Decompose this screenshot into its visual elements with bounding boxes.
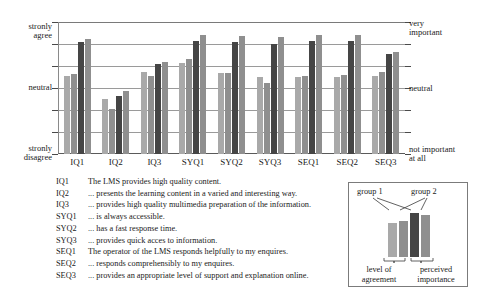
legend-group2-label: group 2 (411, 187, 437, 196)
bar (271, 44, 277, 154)
key-item-text: ... responds comprehensibly to my enquir… (88, 258, 346, 270)
key-item-code: SYQ3 (56, 235, 88, 247)
x-axis-label-syq3: SYQ3 (251, 157, 290, 167)
bar (278, 37, 284, 154)
legend-group1-label: group 1 (357, 187, 383, 196)
bar (302, 76, 308, 154)
bar (316, 35, 322, 154)
bar-group-seq1 (289, 22, 328, 154)
key-list-item: SYQ2... has a fast response time. (56, 223, 346, 235)
bar-group-syq2 (212, 22, 251, 154)
right-axis-tick (405, 44, 411, 45)
key-item-text: ... provides an appropriate level of sup… (88, 270, 346, 282)
legend-footer-agreement: level of agreement (353, 265, 405, 284)
right-axis-tick (405, 110, 411, 111)
left-axis-tick (52, 154, 58, 155)
key-item-code: SYQ2 (56, 223, 88, 235)
bar (379, 72, 385, 155)
question-key-list: IQ1The LMS provides high quality content… (56, 176, 346, 281)
bar-group-iq1 (58, 22, 97, 154)
x-axis-label-iq2: IQ2 (97, 157, 136, 167)
x-axis-label-syq1: SYQ1 (174, 157, 213, 167)
key-item-text: The operator of the LMS responds helpful… (88, 246, 346, 258)
chart-legend: group 1 group 2 level of agreement perce… (348, 182, 468, 287)
key-list-item: IQ1The LMS provides high quality content… (56, 176, 346, 188)
key-list-item: SYQ1... is always accessible. (56, 211, 346, 223)
bar (179, 63, 185, 154)
bar (162, 62, 168, 154)
legend-bar (410, 213, 419, 257)
bar (386, 54, 392, 154)
key-list-item: SEQ1The operator of the LMS responds hel… (56, 246, 346, 258)
bar (85, 39, 91, 155)
bar (64, 76, 70, 154)
x-axis-label-syq2: SYQ2 (212, 157, 251, 167)
bar (186, 59, 192, 154)
bar-group-syq1 (174, 22, 213, 154)
bar-groups (58, 22, 405, 154)
key-item-code: SEQ1 (56, 246, 88, 258)
left-axis-mid-label: neutral (0, 83, 52, 92)
key-list-item: SEQ3... provides an appropriate level of… (56, 270, 346, 282)
bar (341, 75, 347, 154)
bar (257, 77, 263, 154)
bar (155, 64, 161, 154)
bar (71, 74, 77, 154)
key-item-code: SEQ2 (56, 258, 88, 270)
bar-group-seq2 (328, 22, 367, 154)
bar (116, 96, 122, 154)
bar (148, 76, 154, 154)
key-list-item: SEQ2... responds comprehensibly to my en… (56, 258, 346, 270)
right-axis-tick (405, 66, 411, 67)
legend-bar (399, 221, 408, 257)
bar (372, 76, 378, 154)
key-item-code: SEQ3 (56, 270, 88, 282)
bar (200, 35, 206, 154)
left-axis-bottom-label: stronly disagree (0, 144, 52, 162)
x-axis-label-iq1: IQ1 (58, 157, 97, 167)
bar-group-syq3 (251, 22, 290, 154)
right-axis-tick (405, 132, 411, 133)
key-item-text: ... presents the learning content in a v… (88, 188, 346, 200)
bar (232, 42, 238, 154)
bar (123, 91, 129, 154)
key-item-text: ... has a fast response time. (88, 223, 346, 235)
key-item-text: The LMS provides high quality content. (88, 176, 346, 188)
bar (193, 41, 199, 154)
right-axis-bottom-label: not important at all (409, 145, 455, 163)
key-item-code: IQ2 (56, 188, 88, 200)
right-axis-top-label: very important (409, 19, 442, 37)
bar-group-iq2 (97, 22, 136, 154)
key-list-item: IQ3... provides high quality multimedia … (56, 199, 346, 211)
x-axis-label-seq2: SEQ2 (328, 157, 367, 167)
key-list-item: SYQ3... provides quick acces to informat… (56, 235, 346, 247)
x-axis-label-seq3: SEQ3 (366, 157, 405, 167)
key-item-code: SYQ1 (56, 211, 88, 223)
key-list-item: IQ2... presents the learning content in … (56, 188, 346, 200)
bar (109, 109, 115, 154)
bar (309, 41, 315, 154)
legend-bar (421, 215, 430, 257)
bar (239, 36, 245, 154)
right-axis-mid-label: neutral (409, 84, 433, 93)
key-item-text: ... is always accessible. (88, 211, 346, 223)
bar-group-seq3 (367, 22, 406, 154)
bar (348, 41, 354, 154)
bar (295, 77, 301, 154)
bar (102, 99, 108, 154)
bar (78, 42, 84, 154)
x-axis-label-seq1: SEQ1 (289, 157, 328, 167)
left-axis-top-label: stronly agree (0, 22, 52, 40)
chart-region: stronly agree neutral stronly disagree v… (0, 0, 479, 172)
bar (334, 77, 340, 154)
bar (393, 52, 399, 154)
key-item-code: IQ1 (56, 176, 88, 188)
key-item-code: IQ3 (56, 199, 88, 211)
bar (141, 72, 147, 155)
legend-braces (383, 257, 435, 263)
legend-footer-importance: perceived importance (407, 265, 465, 284)
key-item-text: ... provides high quality multimedia pre… (88, 199, 346, 211)
bar-group-iq3 (135, 22, 174, 154)
key-item-text: ... provides quick acces to information. (88, 235, 346, 247)
bar (264, 83, 270, 155)
